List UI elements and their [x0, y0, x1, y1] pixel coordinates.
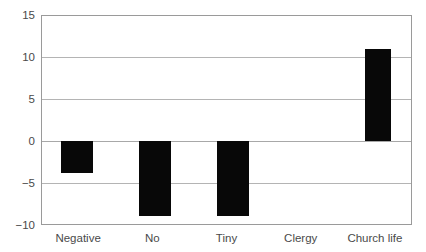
y-tick-label: 5 [0, 94, 35, 106]
y-tick-label: 15 [0, 10, 35, 22]
x-tick-label-church-life: Church life [338, 229, 412, 249]
gridline-10 [42, 57, 411, 58]
bar-negative [61, 141, 93, 173]
y-tick-label: −5 [0, 178, 35, 190]
bar-tiny [217, 141, 249, 216]
x-tick-label-no: No [115, 229, 189, 249]
bar-no [139, 141, 171, 216]
y-tick-label: −10 [0, 220, 35, 232]
gridline-5 [42, 99, 411, 100]
x-axis: Negative No Tiny Clergy Church life [41, 229, 412, 249]
x-tick-label-tiny: Tiny [189, 229, 263, 249]
x-tick-label-negative: Negative [41, 229, 115, 249]
bar-chart: 15 10 5 0 −5 −10 Negative No Tiny Clergy… [0, 0, 426, 252]
y-tick-label: 10 [0, 52, 35, 64]
bar-church-life [365, 49, 391, 141]
x-tick-label-clergy: Clergy [264, 229, 338, 249]
plot-area [41, 15, 412, 225]
y-tick-label: 0 [0, 136, 35, 148]
